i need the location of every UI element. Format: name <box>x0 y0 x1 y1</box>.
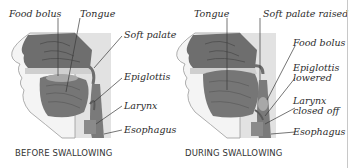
head-cross-section-during <box>175 0 350 168</box>
caption-before-swallowing: BEFORE SWALLOWING <box>15 148 112 158</box>
label-esophagus: Esophagus <box>293 127 345 137</box>
label-tongue: Tongue <box>194 9 229 19</box>
right-border-line <box>347 0 348 168</box>
head-cross-section-before <box>0 0 175 168</box>
panel-during-swallowing: Tongue Soft palate raised Food bolus Epi… <box>175 0 350 168</box>
label-epiglottis-line2: lowered <box>293 73 332 83</box>
label-soft-palate: Soft palate <box>124 30 176 40</box>
label-larynx-line2: closed off <box>293 106 339 116</box>
label-epiglottis: Epiglottis <box>124 72 170 82</box>
label-food-bolus: Food bolus <box>9 9 61 19</box>
caption-during-swallowing: DURING SWALLOWING <box>185 148 282 158</box>
hard-palate <box>25 68 92 74</box>
label-esophagus: Esophagus <box>124 125 176 135</box>
label-tongue: Tongue <box>80 9 115 19</box>
panel-before-swallowing: Food bolus Tongue Soft palate Epiglottis… <box>0 0 175 168</box>
label-soft-palate-raised: Soft palate raised <box>263 9 348 19</box>
label-food-bolus: Food bolus <box>293 38 345 48</box>
larynx-closed <box>251 122 263 136</box>
food-bolus <box>258 97 268 111</box>
label-larynx: Larynx <box>124 101 157 111</box>
larynx <box>84 120 96 134</box>
tongue <box>203 70 259 118</box>
food-bolus <box>46 74 78 82</box>
